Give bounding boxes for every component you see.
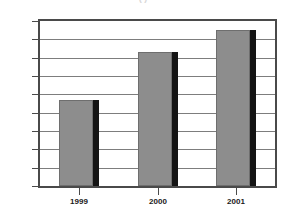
x-tick-label-2000: 2000 [130,197,186,206]
bar-shadow [172,52,178,186]
bar-2001[interactable] [216,30,250,186]
bar-shadow [250,30,256,186]
chart-title-clipped: ( ) [0,0,286,5]
bar-chart-figure: ( ) 5060708090100110120130140 1999200020… [0,0,286,222]
plot-area [38,19,277,188]
bar-shadow [93,100,99,186]
bar-2000[interactable] [138,52,172,186]
x-tick-label-1999: 1999 [51,197,107,206]
x-tick-mark [236,188,237,195]
x-tick-label-2001: 2001 [208,197,264,206]
x-tick-mark [158,188,159,195]
bar-1999[interactable] [59,100,93,186]
x-tick-mark [79,188,80,195]
